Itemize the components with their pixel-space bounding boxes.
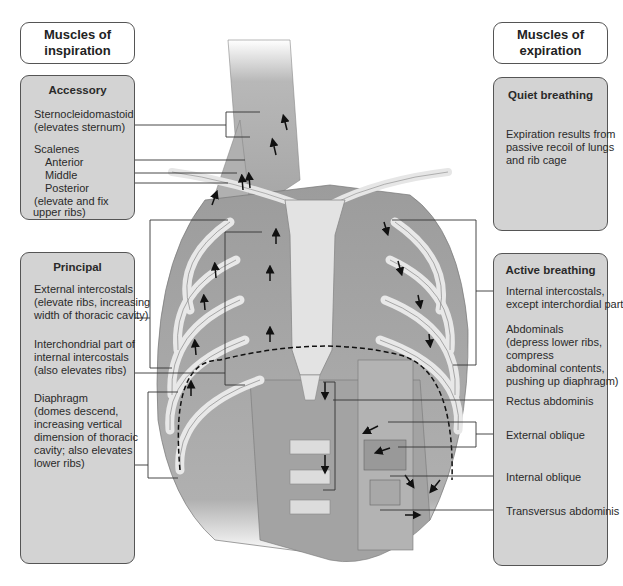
abdominals-note-3: abdominal contents, bbox=[506, 362, 604, 376]
quiet-breathing-line-2: passive recoil of lungs bbox=[506, 141, 614, 155]
internal-intercostals-note: except interchordial part bbox=[506, 298, 623, 312]
expiration-header: Muscles of expiration bbox=[493, 22, 608, 64]
transversus-abdominis-label: Transversus abdominis bbox=[506, 505, 619, 519]
interchondrial-note: (also elevates ribs) bbox=[34, 364, 126, 378]
internal-oblique-label: Internal oblique bbox=[506, 471, 581, 485]
external-intercostals-label: External intercostals bbox=[34, 283, 133, 297]
external-intercostals-note-1: (elevate ribs, increasing bbox=[34, 296, 150, 310]
diaphragm-note-1: (domes descend, bbox=[34, 405, 118, 419]
scalene-anterior-label: Anterior bbox=[45, 156, 84, 170]
accessory-panel: Accessory Sternocleidomastoid (elevates … bbox=[20, 75, 135, 220]
principal-title: Principal bbox=[21, 261, 134, 275]
sternocleidomastoid-label: Sternocleidomastoid bbox=[34, 108, 134, 122]
expiration-header-line2: expiration bbox=[517, 43, 584, 59]
rectus-abdominis-label: Rectus abdominis bbox=[506, 395, 593, 409]
diaphragm-note-5: lower ribs) bbox=[34, 457, 85, 471]
scalenes-note-2-text: upper ribs) bbox=[33, 206, 86, 218]
active-breathing-panel: Active breathing Internal intercostals, … bbox=[493, 253, 608, 566]
interchondrial-label-1: Interchondrial part of bbox=[34, 338, 135, 352]
diaphragm-note-4: cavity; also elevates bbox=[34, 444, 132, 458]
quiet-breathing-line-1: Expiration results from bbox=[506, 128, 615, 142]
diaphragm-label: Diaphragm bbox=[34, 392, 88, 406]
quiet-breathing-line-3: and rib cage bbox=[506, 154, 567, 168]
scalene-middle-label: Middle bbox=[45, 169, 77, 183]
inspiration-header-line2: inspiration bbox=[44, 43, 111, 59]
interchondrial-label-2: internal intercostals bbox=[34, 351, 129, 365]
principal-panel: Principal External intercostals (elevate… bbox=[20, 252, 135, 564]
scalene-posterior-label: Posterior bbox=[45, 182, 89, 196]
abdominals-note-4: pushing up diaphragm) bbox=[506, 375, 619, 389]
external-intercostals-note-2: width of thoracic cavity) bbox=[34, 309, 148, 323]
abdominals-note-1: (depress lower ribs, bbox=[506, 336, 602, 350]
abdominals-note-2: compress bbox=[506, 349, 554, 363]
inspiration-header: Muscles of inspiration bbox=[20, 22, 135, 64]
internal-intercostals-label: Internal intercostals, bbox=[506, 285, 604, 299]
expiration-header-line1: Muscles of bbox=[517, 27, 584, 43]
scalenes-label: Scalenes bbox=[34, 143, 79, 157]
quiet-breathing-title: Quiet breathing bbox=[494, 89, 607, 103]
external-oblique-label: External oblique bbox=[506, 429, 585, 443]
sternocleidomastoid-note: (elevates sternum) bbox=[34, 121, 125, 135]
diaphragm-note-2: increasing vertical bbox=[34, 418, 122, 432]
accessory-title: Accessory bbox=[21, 84, 134, 98]
abdominals-label: Abdominals bbox=[506, 323, 563, 337]
diaphragm-note-3: dimension of thoracic bbox=[34, 431, 138, 445]
inspiration-header-line1: Muscles of bbox=[44, 27, 111, 43]
quiet-breathing-panel: Quiet breathing Expiration results from … bbox=[493, 77, 608, 231]
active-breathing-title: Active breathing bbox=[494, 264, 607, 278]
